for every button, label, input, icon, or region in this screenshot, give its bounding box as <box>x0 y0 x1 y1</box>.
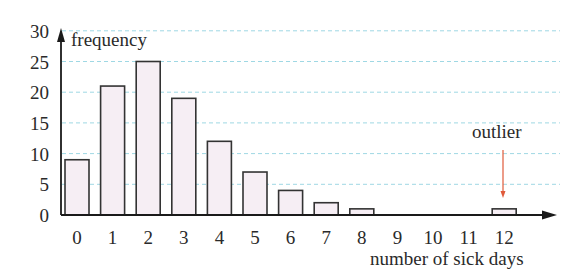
x-tick-label: 4 <box>215 227 225 248</box>
bar-1 <box>101 86 125 215</box>
y-axis-arrow-icon <box>57 28 65 42</box>
y-tick-label: 5 <box>40 174 50 195</box>
y-tick-label: 30 <box>30 21 49 42</box>
x-tick-label: 12 <box>495 227 514 248</box>
outlier-annotation: outlier <box>472 121 522 198</box>
bar-2 <box>136 62 160 216</box>
bar-0 <box>65 160 89 215</box>
bar-7 <box>314 203 338 215</box>
bars <box>65 62 516 216</box>
annotation-label: outlier <box>472 121 522 142</box>
y-tick-label: 15 <box>30 113 49 134</box>
x-tick-labels: 0123456789101112 <box>72 227 513 248</box>
y-tick-label: 0 <box>40 205 50 226</box>
x-tick-label: 9 <box>393 227 403 248</box>
x-tick-label: 5 <box>250 227 260 248</box>
x-tick-label: 1 <box>108 227 118 248</box>
x-axis-label: number of sick days <box>370 248 524 269</box>
y-tick-label: 10 <box>30 144 49 165</box>
bar-6 <box>279 190 303 215</box>
x-tick-label: 6 <box>286 227 296 248</box>
y-tick-label: 25 <box>30 52 49 73</box>
annotation-arrow-icon <box>501 191 506 198</box>
histogram-chart: 051015202530 0123456789101112 frequency … <box>0 0 588 280</box>
x-tick-label: 11 <box>459 227 477 248</box>
x-tick-label: 2 <box>143 227 153 248</box>
x-tick-label: 7 <box>321 227 331 248</box>
bar-12 <box>492 209 516 215</box>
bar-4 <box>207 141 231 215</box>
y-axis-label: frequency <box>71 29 147 50</box>
x-tick-label: 3 <box>179 227 189 248</box>
x-tick-label: 0 <box>72 227 82 248</box>
x-axis-arrow-icon <box>542 211 557 220</box>
x-tick-label: 10 <box>424 227 443 248</box>
bar-5 <box>243 172 267 215</box>
bar-8 <box>350 209 374 215</box>
y-tick-labels: 051015202530 <box>30 21 49 226</box>
x-tick-label: 8 <box>357 227 367 248</box>
bar-3 <box>172 98 196 215</box>
y-tick-label: 20 <box>30 82 49 103</box>
